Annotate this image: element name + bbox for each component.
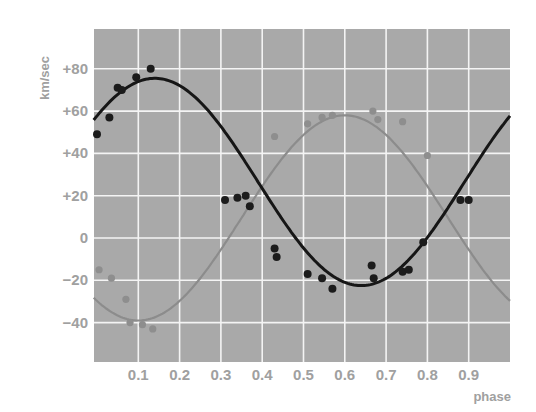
data-point — [233, 194, 241, 202]
x-axis-label: phase — [473, 389, 511, 404]
x-tick-label: 0.9 — [458, 366, 479, 383]
data-point — [328, 285, 336, 293]
y-tick-label: −20 — [63, 271, 88, 288]
data-point — [329, 112, 336, 119]
y-tick-label: −40 — [63, 314, 88, 331]
x-tick-label: 0.6 — [334, 366, 355, 383]
data-point — [304, 270, 312, 278]
data-point — [318, 114, 325, 121]
data-point — [368, 261, 376, 269]
data-point — [374, 116, 381, 123]
data-point — [465, 196, 473, 204]
data-point — [221, 196, 229, 204]
data-point — [105, 113, 113, 121]
data-point — [399, 118, 406, 125]
x-tick-label: 0.2 — [169, 366, 190, 383]
data-point — [273, 253, 281, 261]
x-tick-label: 0.7 — [376, 366, 397, 383]
data-point — [93, 130, 101, 138]
data-point — [369, 108, 376, 115]
y-tick-label: +80 — [63, 60, 88, 77]
data-point — [95, 266, 102, 273]
data-point — [424, 152, 431, 159]
y-tick-label: +40 — [63, 144, 88, 161]
x-tick-label: 0.8 — [417, 366, 438, 383]
y-tick-label: +60 — [63, 102, 88, 119]
y-tick-label: 0 — [80, 229, 88, 246]
data-point — [246, 202, 254, 210]
data-point — [118, 86, 126, 94]
y-axis-label: km/sec — [37, 56, 52, 100]
data-point — [108, 275, 115, 282]
data-point — [147, 65, 155, 73]
data-point — [271, 133, 278, 140]
x-tick-label: 0.4 — [252, 366, 274, 383]
data-point — [139, 321, 146, 328]
radial-velocity-chart: +80+60+40+200−20−40 0.10.20.30.40.50.60.… — [0, 0, 536, 412]
data-point — [419, 238, 427, 246]
data-point — [318, 274, 326, 282]
data-point — [122, 296, 129, 303]
data-point — [149, 325, 156, 332]
data-point — [132, 73, 140, 81]
data-point — [126, 319, 133, 326]
data-point — [304, 120, 311, 127]
data-point — [242, 192, 250, 200]
x-tick-label: 0.5 — [293, 366, 314, 383]
x-tick-label: 0.3 — [210, 366, 231, 383]
data-point — [271, 245, 279, 253]
y-tick-label: +20 — [63, 187, 88, 204]
y-axis-tick-labels: +80+60+40+200−20−40 — [63, 60, 88, 331]
x-tick-label: 0.1 — [128, 366, 149, 383]
data-point — [405, 266, 413, 274]
data-point — [370, 274, 378, 282]
x-axis-tick-labels: 0.10.20.30.40.50.60.70.80.9 — [128, 366, 479, 383]
data-point — [456, 196, 464, 204]
